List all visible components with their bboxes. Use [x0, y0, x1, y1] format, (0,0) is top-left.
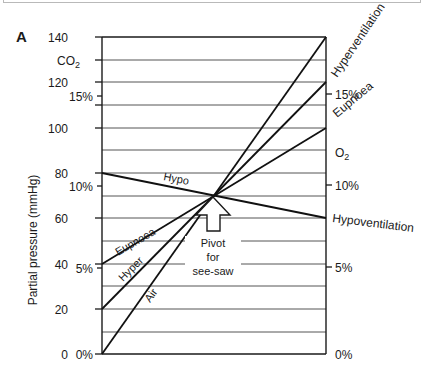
- o2-label: O2: [335, 146, 349, 162]
- right-0pct: 0%: [335, 348, 353, 362]
- co2-label: CO2: [57, 54, 80, 70]
- pivot-arrow-icon: [196, 197, 230, 231]
- tick-40: 40: [55, 258, 69, 272]
- pivot-line-2: for: [207, 251, 220, 263]
- panel-label: A: [16, 28, 27, 45]
- left-15pct: 15%: [69, 90, 93, 104]
- tick-0: 0: [61, 348, 68, 362]
- tick-140: 140: [48, 31, 68, 45]
- tick-60: 60: [55, 212, 69, 226]
- right-10pct: 10%: [335, 179, 359, 193]
- tick-100: 100: [48, 122, 68, 136]
- label-hyperventilation: Hyperventilation: [328, 1, 388, 80]
- left-5pct: 5%: [76, 262, 94, 276]
- pivot-line-3: see-saw: [193, 265, 234, 277]
- line-labels: Hyperventilation Eupnoea Hypoventilation…: [113, 1, 415, 305]
- tick-80: 80: [55, 167, 69, 181]
- left-ticks: [95, 37, 102, 354]
- right-ticks: [326, 94, 332, 267]
- left-10pct: 10%: [69, 180, 93, 194]
- see-saw-diagram: A Partial pressure (mmHg) 140 120 100 80…: [0, 0, 426, 383]
- label-air: Air: [142, 286, 160, 304]
- label-hypoventilation: Hypoventilation: [332, 211, 415, 235]
- tick-120: 120: [48, 76, 68, 90]
- y-axis-tick-labels: 140 120 100 80 60 40 20 0: [48, 31, 68, 362]
- y-axis-title: Partial pressure (mmHg): [26, 175, 40, 306]
- pivot-line-1: Pivot: [201, 237, 225, 249]
- tick-20: 20: [55, 303, 69, 317]
- right-5pct: 5%: [335, 261, 353, 275]
- left-0pct: 0%: [76, 348, 94, 362]
